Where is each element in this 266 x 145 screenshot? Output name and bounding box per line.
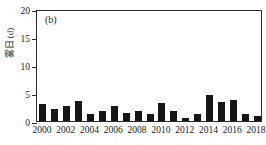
figure-panel-b: 雾日 (d) (b) 05101520 20002002200420062008… bbox=[0, 0, 266, 145]
y-axis-title: 雾日 (d) bbox=[5, 15, 15, 71]
y-tick-label: 5 bbox=[25, 90, 30, 101]
x-tick-label-2014: 2014 bbox=[199, 124, 218, 136]
bar-2001 bbox=[51, 109, 58, 121]
bar-2002 bbox=[63, 106, 70, 121]
bar-2000 bbox=[39, 104, 46, 121]
bar-2018 bbox=[254, 116, 261, 121]
x-tick-label-2002: 2002 bbox=[56, 124, 75, 136]
bar-2010 bbox=[158, 103, 165, 121]
y-tick-label: 10 bbox=[21, 62, 31, 73]
bar-2008 bbox=[135, 111, 142, 121]
bar-2003 bbox=[75, 101, 82, 121]
bar-2015 bbox=[218, 102, 225, 121]
bar-2012 bbox=[182, 118, 189, 121]
x-tick-label-2000: 2000 bbox=[32, 124, 51, 136]
bar-2016 bbox=[230, 100, 237, 121]
x-axis-ticks: 2000200220042006200820102012201420162018 bbox=[36, 124, 262, 142]
plot-area: (b) 05101520 bbox=[36, 10, 262, 122]
bar-2013 bbox=[194, 114, 201, 121]
x-tick-label-2008: 2008 bbox=[128, 124, 147, 136]
bar-2007 bbox=[123, 113, 130, 121]
bar-2011 bbox=[170, 111, 177, 121]
bar-2004 bbox=[87, 114, 94, 121]
bar-2006 bbox=[111, 106, 118, 121]
x-tick-label-2006: 2006 bbox=[104, 124, 123, 136]
x-tick-label-2012: 2012 bbox=[175, 124, 194, 136]
x-tick-label-2010: 2010 bbox=[151, 124, 170, 136]
x-tick-label-2018: 2018 bbox=[247, 124, 266, 136]
bar-2009 bbox=[147, 114, 154, 121]
bar-2017 bbox=[242, 114, 249, 121]
bar-series bbox=[37, 11, 261, 121]
bar-2014 bbox=[206, 95, 213, 121]
x-tick-label-2004: 2004 bbox=[80, 124, 99, 136]
x-tick-label-2016: 2016 bbox=[223, 124, 242, 136]
y-tick-label: 20 bbox=[21, 6, 31, 17]
y-tick-label: 0 bbox=[25, 118, 30, 129]
y-tick-label: 15 bbox=[21, 34, 31, 45]
bar-2005 bbox=[99, 111, 106, 121]
